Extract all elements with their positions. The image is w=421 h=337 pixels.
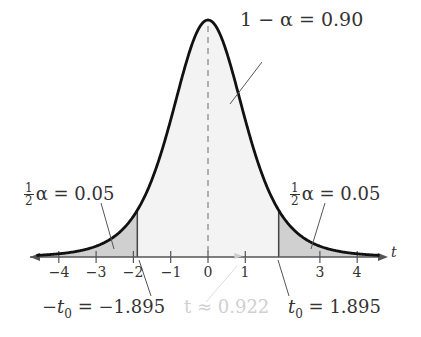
x-tick-label: −1: [161, 264, 182, 280]
x-tick-label: 4: [353, 264, 362, 280]
x-tick-label: −4: [49, 264, 70, 280]
x-tick-label: 3: [316, 264, 325, 280]
x-tick-label: 0: [204, 264, 213, 280]
right-tail-label: 12α = 0.05: [290, 182, 380, 207]
neg-critical-value-label: −t0 = −1.895: [42, 296, 165, 321]
center-area-label: 1 − α = 0.90: [240, 8, 363, 30]
axis-variable-label: t: [391, 244, 397, 260]
t-distribution-plot: [0, 0, 421, 337]
half-fraction: 12: [24, 182, 34, 207]
critical-leader-line: [278, 260, 289, 296]
half-fraction: 12: [290, 182, 300, 207]
critical-value-label: t0 = 1.895: [288, 296, 381, 321]
test-statistic-label: t ≈ 0.922: [184, 296, 269, 317]
right-tail-leader-line: [311, 203, 325, 249]
x-tick-label: 1: [241, 264, 250, 280]
x-tick-label: −2: [123, 264, 144, 280]
x-tick-label: −3: [86, 264, 107, 280]
left-tail-label: 12α = 0.05: [24, 182, 114, 207]
